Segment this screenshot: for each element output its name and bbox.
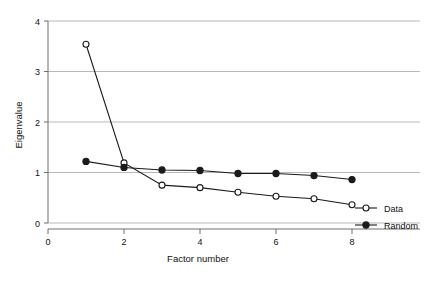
x-axis-title: Factor number bbox=[167, 253, 229, 264]
y-tick-label: 1 bbox=[35, 168, 40, 178]
data-point-random-f3 bbox=[159, 167, 165, 173]
x-tick-label: 6 bbox=[273, 237, 278, 247]
y-tick-label: 3 bbox=[35, 67, 40, 77]
gridlines bbox=[48, 21, 420, 223]
series-line-data bbox=[86, 44, 352, 205]
scree-plot-figure: 01234 02468 Eigenvalue Factor number Dat… bbox=[0, 0, 439, 281]
legend-label-random: Random bbox=[384, 221, 418, 231]
legend-label-data: Data bbox=[384, 204, 403, 214]
data-point-data-f8 bbox=[349, 202, 355, 208]
data-point-data-f1 bbox=[83, 41, 89, 47]
data-point-random-f8 bbox=[349, 176, 355, 182]
x-tick-label: 4 bbox=[197, 237, 202, 247]
y-tick-label: 2 bbox=[35, 118, 40, 128]
data-series-layer bbox=[83, 41, 355, 208]
legend-swatch-marker bbox=[363, 222, 369, 228]
x-tick-label: 0 bbox=[45, 237, 50, 247]
data-point-random-f6 bbox=[273, 170, 279, 176]
data-point-data-f3 bbox=[159, 182, 165, 188]
y-axis-title: Eigenvalue bbox=[13, 101, 24, 148]
data-point-random-f7 bbox=[311, 172, 317, 178]
data-point-data-f6 bbox=[273, 193, 279, 199]
x-axis-ticks: 02468 bbox=[45, 229, 354, 247]
y-axis-ticks: 01234 bbox=[35, 17, 48, 229]
legend: DataRandom bbox=[355, 204, 418, 231]
data-point-random-f2 bbox=[121, 164, 127, 170]
data-point-data-f5 bbox=[235, 189, 241, 195]
y-tick-label: 4 bbox=[35, 17, 40, 27]
x-tick-label: 2 bbox=[121, 237, 126, 247]
x-tick-label: 8 bbox=[349, 237, 354, 247]
data-point-random-f5 bbox=[235, 170, 241, 176]
legend-swatch-marker bbox=[363, 205, 369, 211]
data-point-random-f4 bbox=[197, 167, 203, 173]
y-tick-label: 0 bbox=[35, 219, 40, 229]
chart-canvas: 01234 02468 Eigenvalue Factor number Dat… bbox=[0, 0, 439, 281]
data-point-data-f7 bbox=[311, 196, 317, 202]
data-point-random-f1 bbox=[83, 158, 89, 164]
data-point-data-f4 bbox=[197, 185, 203, 191]
